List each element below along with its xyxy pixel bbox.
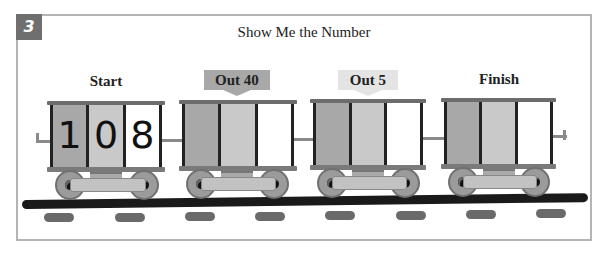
tens-cell[interactable] <box>479 102 514 164</box>
wheel-rod <box>201 177 276 191</box>
coupler <box>423 137 444 140</box>
coupler <box>36 140 50 143</box>
hundreds-cell[interactable]: 1 <box>53 105 86 167</box>
rail-sleeper <box>396 211 426 220</box>
ones-cell[interactable] <box>384 103 420 165</box>
finish-label: Finish <box>444 71 554 88</box>
rail-sleeper <box>536 209 566 218</box>
coupler-pin <box>563 130 566 140</box>
rail-sleeper <box>325 211 355 220</box>
place-value-cells <box>313 103 423 165</box>
train-car-finish <box>444 98 553 170</box>
place-value-cells: 1 0 8 <box>50 105 162 167</box>
ones-cell[interactable] <box>255 104 291 166</box>
train-car-out-5 <box>313 99 423 171</box>
wheel-rod <box>70 178 146 192</box>
tens-cell[interactable] <box>349 103 385 165</box>
place-value-cells <box>444 102 553 164</box>
place-value-cells <box>182 104 294 166</box>
rail-sleeper <box>115 213 145 222</box>
wheel-rod <box>332 176 407 190</box>
rail-sleeper <box>466 210 496 219</box>
train-car-start: 1 0 8 <box>50 101 162 173</box>
hundreds-cell[interactable] <box>447 102 479 164</box>
tag-arrow-icon <box>354 90 382 96</box>
hundreds-cell[interactable] <box>316 103 349 165</box>
out-40-tag: Out 40 <box>204 70 270 90</box>
start-label: Start <box>50 73 162 90</box>
wheel-rod <box>463 175 537 189</box>
problem-title: Show Me the Number <box>0 24 608 41</box>
coupler <box>162 139 182 142</box>
ones-cell[interactable]: 8 <box>123 105 159 167</box>
train-car-out-40 <box>182 100 294 172</box>
coupler <box>292 138 313 141</box>
tens-cell[interactable] <box>218 104 254 166</box>
out-5-tag-text: Out 5 <box>350 72 386 88</box>
out-5-tag: Out 5 <box>338 70 398 90</box>
out-40-tag-text: Out 40 <box>215 72 259 88</box>
rail-sleeper <box>185 212 215 221</box>
rail-sleeper <box>255 212 285 221</box>
tens-cell[interactable]: 0 <box>86 105 122 167</box>
rail-sleeper <box>44 213 74 222</box>
tag-arrow-icon <box>223 90 251 96</box>
hundreds-cell[interactable] <box>185 104 218 166</box>
ones-cell[interactable] <box>515 102 550 164</box>
